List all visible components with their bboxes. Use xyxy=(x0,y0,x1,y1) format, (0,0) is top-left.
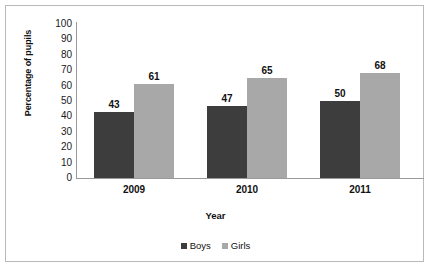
y-axis-tick-40: 40 xyxy=(46,111,72,121)
bar-boys-2009 xyxy=(94,112,134,178)
y-axis-tick-100: 100 xyxy=(46,19,72,29)
x-axis-line xyxy=(76,178,424,179)
x-axis-title: Year xyxy=(6,210,425,221)
y-axis-tick-60: 60 xyxy=(46,81,72,91)
y-axis-tick-10: 10 xyxy=(46,158,72,168)
y-axis-tick-80: 80 xyxy=(46,50,72,60)
bar-girls-2011 xyxy=(360,73,400,178)
y-axis-title: Percentage of pupils xyxy=(23,13,33,133)
y-axis-tick-30: 30 xyxy=(46,127,72,137)
y-axis-tick-labels: 1009080706050403020100 xyxy=(44,6,72,196)
legend-item-girls[interactable]: Girls xyxy=(222,240,251,251)
chart-frame: Percentage of pupils 1009080706050403020… xyxy=(5,5,424,262)
bar-girls-2010 xyxy=(247,78,287,178)
y-axis-tick-70: 70 xyxy=(46,65,72,75)
bar-value-label-girls-2009: 61 xyxy=(116,71,192,82)
y-axis-tick-50: 50 xyxy=(46,96,72,106)
plot-area: 436147655068 xyxy=(76,24,421,178)
bar-girls-2009 xyxy=(134,84,174,178)
bar-boys-2010 xyxy=(207,106,247,178)
x-axis-tick-2010: 2010 xyxy=(202,184,292,195)
bar-value-label-girls-2010: 65 xyxy=(229,65,305,76)
bar-boys-2011 xyxy=(320,101,360,178)
bar-value-label-girls-2011: 68 xyxy=(342,60,418,71)
legend-swatch-icon-girls xyxy=(222,243,228,249)
legend-swatch-icon-boys xyxy=(181,243,187,249)
x-axis-tick-2009: 2009 xyxy=(89,184,179,195)
chart-legend: BoysGirls xyxy=(6,240,425,251)
legend-label-boys: Boys xyxy=(190,240,211,251)
legend-label-girls: Girls xyxy=(231,240,251,251)
y-axis-tick-90: 90 xyxy=(46,34,72,44)
y-axis-tick-20: 20 xyxy=(46,142,72,152)
x-axis-tick-2011: 2011 xyxy=(315,184,405,195)
y-axis-tick-0: 0 xyxy=(46,173,72,183)
legend-item-boys[interactable]: Boys xyxy=(181,240,211,251)
